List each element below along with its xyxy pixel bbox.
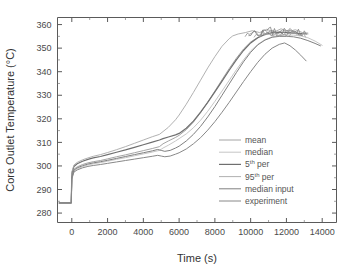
- x-tick-label: 2000: [98, 227, 118, 237]
- chart-page: 0200040006000800010000120001400028029030…: [0, 0, 352, 271]
- x-tick-label: 12000: [274, 227, 299, 237]
- y-tick-label: 320: [36, 114, 51, 124]
- y-tick-label: 310: [36, 138, 51, 148]
- core-outlet-temperature-chart: 0200040006000800010000120001400028029030…: [0, 0, 352, 271]
- y-tick-label: 330: [36, 90, 51, 100]
- y-axis-title: Core Outlet Temperature (°C): [4, 48, 16, 192]
- y-tick-label: 280: [36, 208, 51, 218]
- y-tick-label: 340: [36, 67, 51, 77]
- y-tick-label: 360: [36, 20, 51, 30]
- x-tick-label: 14000: [310, 227, 335, 237]
- y-tick-label: 350: [36, 43, 51, 53]
- legend-label: 95th per: [245, 172, 274, 182]
- legend-label: mean: [245, 135, 267, 145]
- x-tick-label: 0: [69, 227, 74, 237]
- x-tick-label: 10000: [238, 227, 263, 237]
- legend-label: experiment: [245, 196, 288, 206]
- legend-label: 5th per: [245, 159, 270, 169]
- x-axis-title: Time (s): [177, 252, 217, 264]
- x-tick-label: 6000: [169, 227, 189, 237]
- y-tick-label: 300: [36, 161, 51, 171]
- y-tick-label: 290: [36, 185, 51, 195]
- legend-label: median: [245, 147, 273, 157]
- legend-label: median input: [245, 184, 294, 194]
- x-tick-label: 8000: [205, 227, 225, 237]
- x-tick-label: 4000: [133, 227, 153, 237]
